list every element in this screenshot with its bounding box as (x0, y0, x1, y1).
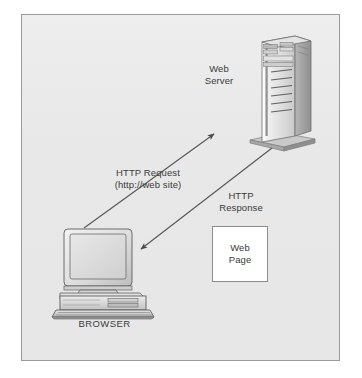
web-page-box: Web Page (212, 226, 268, 282)
web-page-label: Web Page (213, 227, 267, 266)
browser-label: BROWSER (57, 318, 152, 330)
http-request-label: HTTP Request (http://web site) (88, 167, 208, 191)
web-server-label: Web Server (190, 63, 248, 87)
http-response-label: HTTP Response (196, 190, 286, 214)
diagram-root: Web Server HTTP Request (http://web site… (0, 0, 362, 378)
